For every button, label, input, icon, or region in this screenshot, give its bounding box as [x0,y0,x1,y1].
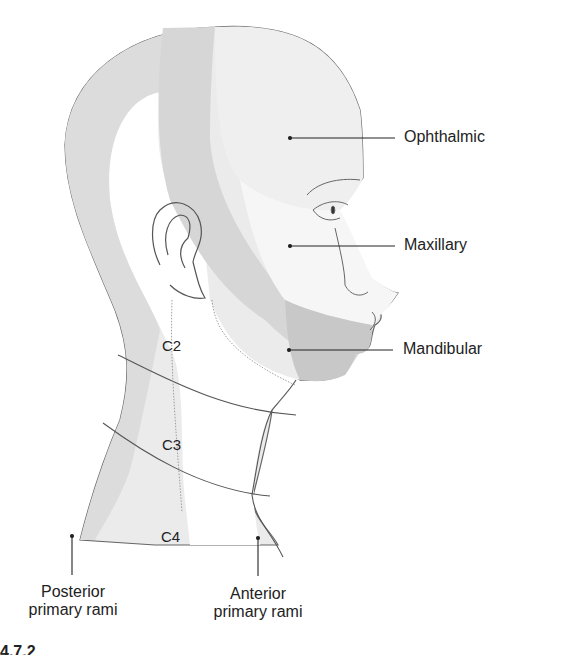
posterior-line2: primary rami [18,601,128,619]
label-ophthalmic: Ophthalmic [404,128,485,146]
label-posterior-rami: Posterior primary rami [18,583,128,620]
segment-c4: C4 [161,528,180,545]
posterior-line1: Posterior [18,583,128,601]
label-mandibular: Mandibular [403,340,482,358]
label-anterior-rami: Anterior primary rami [203,585,313,622]
figure-number: 4.7.2 [0,643,36,655]
label-maxillary: Maxillary [404,236,467,254]
anterior-line1: Anterior [203,585,313,603]
anterior-line2: primary rami [203,603,313,621]
segment-c3: C3 [162,436,181,453]
head-neck-diagram [0,0,561,655]
segment-c2: C2 [162,337,181,354]
